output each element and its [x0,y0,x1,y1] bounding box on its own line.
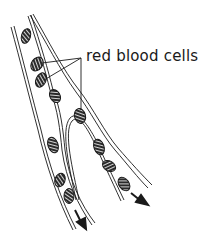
label-leader-lines [42,58,81,110]
red-blood-cell [20,28,33,45]
red-blood-cell [64,189,74,204]
red-blood-cell [116,175,133,193]
red-blood-cells-label: red blood cells [86,47,198,65]
vessel-outer-right-wall [30,14,152,188]
red-blood-cell [47,87,63,104]
red-blood-cell [46,136,61,154]
blood-vessel-diagram [0,0,216,247]
red-blood-cell [33,71,48,89]
red-blood-cell [92,138,107,156]
red-blood-cell [53,172,67,189]
flow-arrow-right-branch [131,193,148,205]
red-blood-cell [28,55,46,74]
red-blood-cell [100,158,117,174]
